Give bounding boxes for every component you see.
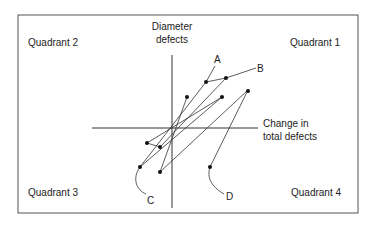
callout-a: A: [214, 54, 221, 65]
quadrant-diagram: Diameter defects Change in total defects…: [0, 0, 371, 232]
quadrant-1-label: Quadrant 1: [290, 37, 340, 48]
data-points: [138, 76, 250, 174]
callout-d: D: [226, 191, 233, 202]
callout-c: C: [147, 195, 154, 206]
quadrant-4-label: Quadrant 4: [291, 187, 341, 198]
callout-b: B: [257, 63, 264, 74]
y-axis-label-1: Diameter: [152, 21, 193, 32]
quadrant-3-label: Quadrant 3: [28, 187, 78, 198]
y-axis-label-2: defects: [156, 34, 188, 45]
x-axis-label-2: total defects: [263, 131, 317, 142]
x-axis-label-1: Change in: [263, 118, 309, 129]
quadrant-2-label: Quadrant 2: [28, 37, 78, 48]
trajectory-lines: [136, 66, 256, 194]
